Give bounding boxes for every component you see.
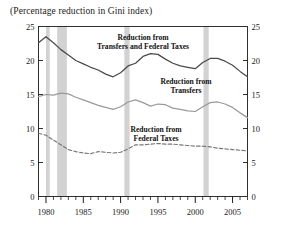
y-axis-tick-label-right: 10 [252, 124, 261, 134]
chart-page: (Percentage reduction in Gini index) 252… [0, 0, 288, 234]
series-annotation-label: Transfers [170, 86, 201, 95]
y-axis-tick-label-right: 20 [252, 56, 261, 66]
y-axis-tick-label-left: 20 [26, 56, 35, 66]
line-chart-svg: 2520151050 2520151050 198019851990199520… [0, 0, 288, 234]
x-axis-tick-label: 2000 [187, 207, 204, 217]
y-axis-tick-label-right: 5 [252, 158, 256, 168]
x-axis-tick-label: 1985 [75, 207, 92, 217]
y-axis-tick-label-right: 15 [252, 90, 261, 100]
y-axis-tick-label-left: 15 [26, 90, 35, 100]
y-axis-tick-label-right: 25 [252, 22, 261, 32]
y-axis-tick-label-right: 0 [252, 192, 256, 202]
x-axis-tick-label: 1980 [37, 207, 54, 217]
series-annotations: Reduction fromTransfers and Federal Taxe… [97, 33, 212, 143]
y-axis-left-labels: 2520151050 [26, 22, 35, 202]
series-annotation-label: Reduction from [160, 77, 212, 86]
x-axis-ticks [39, 197, 248, 204]
plot-border [39, 27, 248, 197]
y-axis-tick-label-left: 10 [26, 124, 35, 134]
series-annotation-label: Reduction from [117, 33, 169, 42]
recession-band [57, 27, 67, 197]
series-annotation-label: Federal Taxes [134, 134, 179, 143]
series-annotation-label: Transfers and Federal Taxes [97, 42, 189, 51]
y-axis-left-ticks [39, 61, 44, 163]
recession-band [124, 27, 129, 197]
x-axis-labels: 198019851990199520002005 [37, 207, 241, 217]
recession-band [46, 27, 50, 197]
x-axis-tick-label: 2005 [224, 207, 241, 217]
y-axis-tick-label-left: 0 [30, 192, 34, 202]
y-axis-tick-label-left: 5 [30, 158, 34, 168]
y-axis-tick-label-left: 25 [26, 22, 35, 32]
x-axis-tick-label: 1995 [149, 207, 166, 217]
recession-bands-group [46, 27, 209, 197]
x-axis-tick-label: 1990 [112, 207, 129, 217]
chart-container: 2520151050 2520151050 198019851990199520… [0, 0, 288, 234]
y-axis-right-labels: 2520151050 [252, 22, 261, 202]
recession-band [203, 27, 208, 197]
plot-frame [39, 27, 248, 197]
series-line [39, 93, 248, 117]
series-annotation-label: Reduction from [130, 125, 182, 134]
